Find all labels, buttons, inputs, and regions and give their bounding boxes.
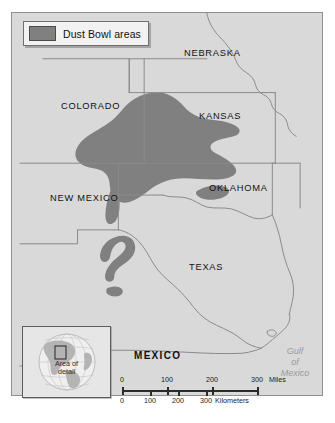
miles-tick-200: 200 [206, 375, 218, 384]
scale-miles-numbers: 0 100 200 300 Miles [122, 375, 272, 386]
km-tick-300: 300 [200, 396, 212, 405]
km-tick-100: 100 [144, 396, 156, 405]
tick-mark-1 [167, 387, 169, 395]
map-frame: NEBRASKA COLORADO KANSAS OKLAHOMA NEW ME… [11, 12, 323, 396]
map-legend: Dust Bowl areas [23, 21, 149, 46]
miles-tick-100: 100 [161, 375, 173, 384]
scale-bar-line-miles [122, 387, 272, 395]
miles-tick-0: 0 [120, 375, 124, 384]
km-tick-0: 0 [120, 396, 124, 405]
scale-axis [122, 390, 257, 392]
label-kansas: KANSAS [199, 111, 241, 121]
area-of-detail-line-2: detail [23, 368, 110, 376]
tick-mark-0 [122, 387, 124, 395]
tick-mark-3 [257, 387, 259, 395]
gulf-line-2: of [270, 357, 320, 368]
inset-locator-map: Area of detail [22, 326, 111, 398]
miles-tick-300: 300 [251, 375, 263, 384]
area-of-detail-label: Area of detail [23, 360, 110, 377]
tick-mark-2 [212, 387, 214, 395]
label-nebraska: NEBRASKA [184, 48, 241, 58]
legend-label: Dust Bowl areas [63, 28, 141, 40]
km-unit: Kilometers [215, 396, 249, 405]
label-texas: TEXAS [189, 262, 223, 272]
km-tick-200: 200 [172, 396, 184, 405]
scale-bar: 0 100 200 300 Miles 0 100 200 300 [122, 375, 272, 407]
label-oklahoma: OKLAHOMA [209, 183, 268, 193]
map-figure: NEBRASKA COLORADO KANSAS OKLAHOMA NEW ME… [0, 0, 335, 423]
label-colorado: COLORADO [61, 101, 120, 111]
label-mexico: MEXICO [134, 350, 181, 361]
miles-unit: Miles [269, 375, 286, 384]
dust-bowl-swatch-icon [29, 26, 56, 41]
label-new-mexico: NEW MEXICO [50, 193, 118, 203]
gulf-line-1: Gulf [270, 346, 320, 357]
scale-km-numbers: 0 100 200 300 Kilometers [122, 396, 272, 407]
